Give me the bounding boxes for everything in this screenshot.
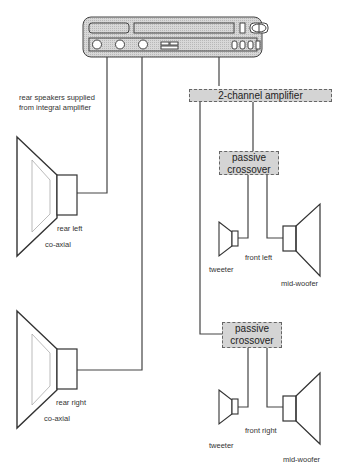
- front-right-tweeter-icon: [219, 390, 238, 424]
- crossover-label-line1: passive: [220, 152, 278, 164]
- front-left-label: front left: [245, 253, 272, 262]
- front-left-tweeter-label: tweeter: [209, 265, 234, 274]
- front-right-label: front right: [245, 426, 277, 435]
- wire-rear-left: [77, 57, 107, 193]
- wire-xover2-tweeter: [238, 348, 248, 407]
- front-left-tweeter-icon: [219, 222, 238, 256]
- rear-note-line2: from integral amplifier: [19, 103, 91, 112]
- wire-amp-to-crossover-2: [200, 100, 226, 334]
- front-right-woofer-icon: [283, 373, 320, 444]
- wire-xover1-woofer: [267, 175, 283, 238]
- front-right-woofer-label: mid-woofer: [283, 455, 320, 464]
- crossover-label-line2: crossover: [220, 164, 278, 176]
- rear-right-speaker-icon: [17, 311, 77, 428]
- front-left-woofer-label: mid-woofer: [281, 279, 318, 288]
- front-left-woofer-icon: [283, 204, 320, 276]
- rear-left-speaker-icon: [17, 137, 77, 256]
- rear-left-type: co-axial: [45, 240, 71, 249]
- head-unit: [83, 17, 268, 57]
- rear-right-type: co-axial: [44, 414, 70, 423]
- wire-xover2-woofer: [267, 348, 283, 407]
- rear-note-line1: rear speakers supplied: [19, 93, 95, 102]
- crossover-label-line1: passive: [223, 323, 281, 335]
- front-right-tweeter-label: tweeter: [209, 441, 234, 450]
- amplifier-label: 2-channel amplifier: [218, 90, 303, 101]
- amplifier-box: 2-channel amplifier: [189, 89, 332, 102]
- crossover-front-left: passive crossover: [219, 151, 279, 175]
- rear-right-label: rear right: [56, 398, 86, 407]
- wiring-diagram: [0, 0, 337, 474]
- wires: [77, 57, 283, 407]
- rear-left-label: rear left: [57, 224, 82, 233]
- wire-xover1-tweeter: [238, 175, 248, 238]
- crossover-label-line2: crossover: [223, 335, 281, 347]
- crossover-front-right: passive crossover: [222, 322, 282, 348]
